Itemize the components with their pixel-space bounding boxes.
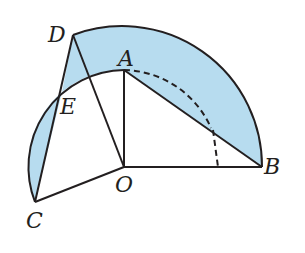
label-A: A	[116, 46, 134, 71]
label-D: D	[47, 22, 66, 47]
label-C: C	[26, 208, 43, 233]
label-B: B	[263, 154, 280, 179]
segment-OC	[35, 167, 124, 202]
geometry-diagram: D A E O B C	[0, 0, 305, 253]
label-O: O	[115, 172, 133, 197]
label-E: E	[59, 94, 76, 119]
